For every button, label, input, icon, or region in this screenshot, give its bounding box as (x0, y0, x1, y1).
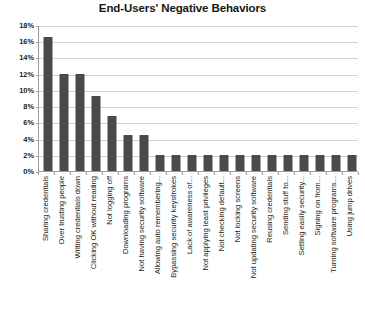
bar-slot (280, 26, 296, 171)
x-axis-tick-label: Sharing credentials (42, 176, 50, 241)
x-axis-tick-mark (102, 172, 103, 175)
x-axis-label-slot: Lack of awareness of... (182, 176, 198, 324)
x-axis-tick-mark (310, 172, 311, 175)
x-axis-label-slot: Not logging off (102, 176, 118, 324)
bar (92, 96, 101, 171)
x-axis-label-slot: Allowing auto remembering... (150, 176, 166, 324)
x-axis-tick-mark (262, 172, 263, 175)
bar-slot (88, 26, 104, 171)
x-axis-tick-mark (358, 172, 359, 175)
y-axis-tick-label: 2% (23, 152, 34, 160)
x-axis-tick-mark (166, 172, 167, 175)
x-axis-tick-label: Over trusting people (58, 176, 66, 244)
y-axis-tick-mark (36, 26, 39, 27)
bar (172, 155, 181, 171)
x-axis-tick-mark (70, 172, 71, 175)
bar-slot (184, 26, 200, 171)
y-axis-tick-label: 12% (19, 71, 34, 79)
x-axis-tick-mark (326, 172, 327, 175)
x-axis-tick-mark (150, 172, 151, 175)
bar-slot (344, 26, 360, 171)
x-axis-label-slot: Reusing credentials (262, 176, 278, 324)
bar-slot (120, 26, 136, 171)
x-axis-label-slot: Setting easily security... (294, 176, 310, 324)
x-axis-tick-mark (278, 172, 279, 175)
y-axis-tick-label: 18% (19, 22, 34, 30)
x-axis-label-slot: Not locking screens (230, 176, 246, 324)
x-axis-tick-label: Not updating security software (250, 176, 258, 278)
bar (188, 155, 197, 171)
x-axis-tick-label: Sending stuff to... (282, 176, 290, 235)
x-axis-label-slot: Using jump drives (342, 176, 358, 324)
x-axis-tick-label: Not logging off (106, 176, 114, 225)
y-axis-tick-mark (36, 75, 39, 76)
x-axis-tick-label: Lack of awareness of... (186, 176, 194, 254)
y-axis-tick-mark (36, 42, 39, 43)
x-axis-tick-mark (182, 172, 183, 175)
bar-slot (200, 26, 216, 171)
x-axis-tick-label: Setting easily security... (298, 176, 306, 255)
x-axis-label-slot: Sharing credentials (38, 176, 54, 324)
x-axis-tick-mark (86, 172, 87, 175)
y-axis-tick-mark (36, 91, 39, 92)
bar (204, 155, 213, 171)
bar (44, 37, 53, 171)
y-axis-tick-label: 14% (19, 54, 34, 62)
x-axis-label-slot: Bypassing security keystrokes (166, 176, 182, 324)
x-axis-tick-mark (134, 172, 135, 175)
bar (300, 155, 309, 171)
bar (76, 74, 85, 171)
bar (268, 155, 277, 171)
x-axis-tick-label: Turning software programs... (330, 176, 338, 273)
bar-slot (264, 26, 280, 171)
bar (332, 155, 341, 171)
bar-slot (72, 26, 88, 171)
x-axis-tick-mark (342, 172, 343, 175)
bar (108, 116, 117, 171)
x-axis-tick-label: Downloading programs (122, 176, 130, 254)
plot-area: 0%2%4%6%8%10%12%14%16%18% (38, 26, 358, 172)
x-axis-label-slot: Downloading programs (118, 176, 134, 324)
y-axis-tick-mark (36, 58, 39, 59)
x-axis-tick-mark (38, 172, 39, 175)
x-axis-label-slot: Not having security software (134, 176, 150, 324)
x-axis-tick-mark (54, 172, 55, 175)
bar (348, 155, 357, 171)
bar-slot (168, 26, 184, 171)
x-axis-tick-label: Not applying least privileges (202, 176, 210, 271)
x-axis-tick-label: Bypassing security keystrokes (170, 176, 178, 278)
bar (156, 155, 165, 171)
bar (140, 135, 149, 172)
x-axis-tick-label: Writing credentials down (74, 176, 82, 259)
bar-slot (216, 26, 232, 171)
bar (316, 155, 325, 171)
y-axis-tick-mark (36, 140, 39, 141)
bar (284, 155, 293, 171)
x-axis-label-slot: Not applying least privileges (198, 176, 214, 324)
bar-slot (328, 26, 344, 171)
x-axis-tick-label: Allowing auto remembering... (154, 176, 162, 274)
x-axis-tick-label: Clicking OK without reading (90, 176, 98, 269)
x-axis-tick-label: Not having security software (138, 176, 146, 271)
chart-title: End-Users' Negative Behaviors (0, 1, 365, 15)
x-axis-tick-label: Not checking default... (218, 176, 226, 251)
x-axis-tick-mark (230, 172, 231, 175)
bar-slot (56, 26, 72, 171)
x-axis-tick-label: Using jump drives (346, 176, 354, 236)
x-axis-labels: Sharing credentialsOver trusting peopleW… (38, 176, 358, 324)
y-axis-tick-label: 16% (19, 38, 34, 46)
bar-slot (40, 26, 56, 171)
x-axis-tick-label: Not locking screens (234, 176, 242, 242)
x-axis-label-slot: Sending stuff to... (278, 176, 294, 324)
bar-slot (232, 26, 248, 171)
bar (236, 155, 245, 171)
x-axis-tick-mark (246, 172, 247, 175)
y-axis-tick-mark (36, 156, 39, 157)
bar-slot (104, 26, 120, 171)
x-axis-label-slot: Writing credentials down (70, 176, 86, 324)
x-axis-tick-mark (294, 172, 295, 175)
x-axis-tick-label: Reusing credentials (266, 176, 274, 243)
x-axis-tick-mark (118, 172, 119, 175)
bar-slot (152, 26, 168, 171)
x-axis-tick-label: Signing on from... (314, 176, 322, 236)
